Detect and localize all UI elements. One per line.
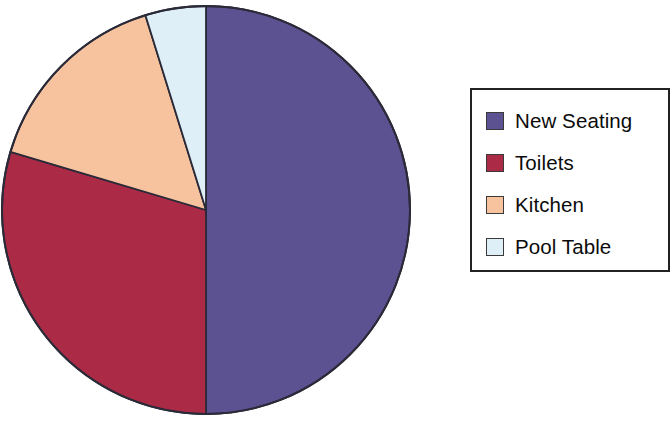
chart-legend: New Seating Toilets Kitchen Pool Table (470, 88, 670, 272)
legend-swatch-toilets-icon (486, 154, 504, 172)
legend-item-kitchen: Kitchen (486, 184, 668, 226)
legend-swatch-kitchen-icon (486, 196, 504, 214)
pie-slice-new-seating (206, 6, 410, 414)
legend-item-pool-table: Pool Table (486, 226, 668, 268)
legend-label-new-seating: New Seating (515, 111, 632, 132)
legend-swatch-new-seating-icon (486, 112, 504, 130)
legend-label-pool-table: Pool Table (515, 237, 611, 258)
legend-swatch-pool-table-icon (486, 238, 504, 256)
legend-label-kitchen: Kitchen (515, 195, 584, 216)
legend-item-new-seating: New Seating (486, 100, 668, 142)
legend-item-toilets: Toilets (486, 142, 668, 184)
legend-label-toilets: Toilets (515, 153, 574, 174)
pie-slice-group (2, 6, 410, 414)
